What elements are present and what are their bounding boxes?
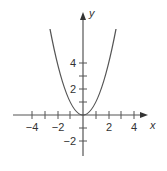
x-tick-label: −4 xyxy=(26,121,39,133)
y-tick-label: 4 xyxy=(70,57,76,69)
y-axis-label: y xyxy=(88,7,96,19)
x-axis-label: x xyxy=(149,119,156,131)
y-tick-label: −2 xyxy=(63,135,76,147)
x-tick-label: 2 xyxy=(106,121,112,133)
y-axis-arrow-icon xyxy=(80,12,86,20)
x-tick-label: −2 xyxy=(52,121,65,133)
parabola-chart: −4 −2 2 4 4 2 −2 x y xyxy=(0,0,167,171)
x-tick-label: 4 xyxy=(131,121,137,133)
x-axis-arrow-icon xyxy=(140,112,148,118)
y-tick-label: 2 xyxy=(70,83,76,95)
